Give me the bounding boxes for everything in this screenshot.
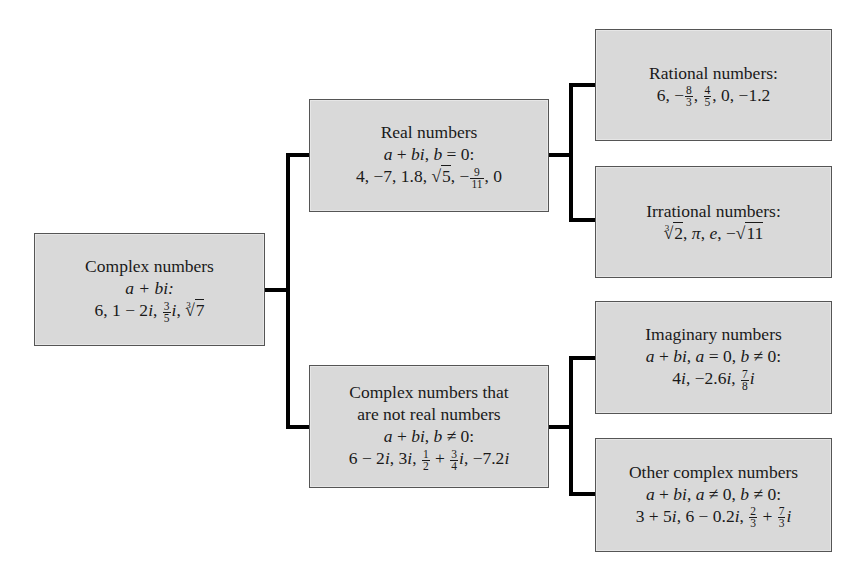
fraction: 911 [470, 167, 483, 190]
connector-to-imaginary [569, 356, 595, 360]
node-title-line2: are not real numbers [357, 403, 500, 425]
connector-to-real [286, 153, 309, 157]
node-title: Imaginary numbers [645, 323, 782, 345]
connector-to-nonreal [286, 425, 309, 429]
node-nonreal-complex-numbers: Complex numbers that are not real number… [309, 365, 549, 488]
node-examples: 4, −7, 1.8, √5, −911, 0 [356, 165, 502, 189]
fraction: 83 [685, 85, 693, 108]
fraction: 34 [450, 449, 458, 472]
node-imaginary-numbers: Imaginary numbers a + bi, a = 0, b ≠ 0: … [595, 301, 832, 414]
connector-to-other [569, 492, 595, 496]
connector-root-vertical [286, 153, 290, 429]
node-examples: 6, −83, 45, 0, −1.2 [657, 84, 771, 108]
node-condition: a + bi, a = 0, b ≠ 0: [646, 345, 781, 367]
fraction: 78 [741, 369, 749, 392]
node-examples: 6 − 2i, 3i, 12 + 34i, −7.2i [349, 447, 510, 471]
node-title: Other complex numbers [629, 461, 798, 483]
node-other-complex-numbers: Other complex numbers a + bi, a ≠ 0, b ≠… [595, 438, 832, 552]
node-examples: 6, 1 − 2i, 35i, 3√7 [95, 299, 205, 323]
node-examples: 3 + 5i, 6 − 0.2i, 23 + 73i [636, 505, 792, 529]
fraction: 23 [749, 506, 757, 529]
node-title-line1: Complex numbers that [349, 381, 508, 403]
node-real-numbers: Real numbers a + bi, b = 0: 4, −7, 1.8, … [309, 99, 549, 212]
node-examples: 3√2, π, e, −√11 [664, 222, 764, 244]
fraction: 35 [163, 301, 171, 324]
node-condition: a + bi, b = 0: [384, 143, 475, 165]
node-complex-numbers: Complex numbers a + bi: 6, 1 − 2i, 35i, … [34, 233, 265, 346]
node-condition: a + bi: [125, 277, 174, 299]
fraction: 73 [778, 506, 786, 529]
fraction: 12 [422, 449, 430, 472]
connector-to-rational [569, 83, 595, 87]
node-rational-numbers: Rational numbers: 6, −83, 45, 0, −1.2 [595, 29, 832, 141]
node-title: Complex numbers [85, 255, 214, 277]
connector-to-irrational [569, 218, 595, 222]
node-condition: a + bi, a ≠ 0, b ≠ 0: [646, 483, 781, 505]
node-title: Real numbers [381, 121, 478, 143]
node-condition: a + bi, b ≠ 0: [384, 425, 474, 447]
node-examples: 4i, −2.6i, 78i [672, 367, 754, 391]
cube-root: 3√2 [664, 222, 683, 244]
cube-root: 3√7 [185, 299, 204, 321]
node-title: Rational numbers: [649, 62, 778, 84]
node-irrational-numbers: Irrational numbers: 3√2, π, e, −√11 [595, 166, 832, 278]
fraction: 45 [704, 85, 712, 108]
connector-real-vertical [569, 83, 573, 222]
connector-nonreal-vertical [569, 356, 573, 496]
